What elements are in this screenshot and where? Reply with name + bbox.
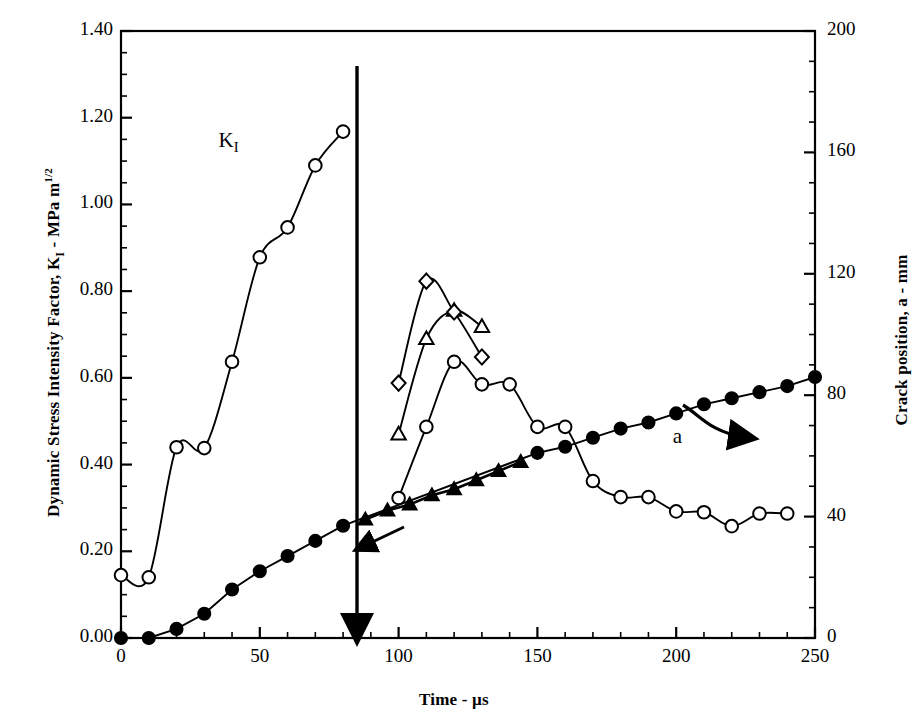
crack-segment-arrow — [364, 527, 404, 546]
data-series-layer — [115, 125, 822, 644]
y-left-tick-1.20: 1.20 — [43, 105, 113, 127]
a-pointer-arrow — [683, 405, 744, 437]
y-left-tick-0.00: 0.00 — [43, 625, 113, 647]
y-right-tick-120: 120 — [827, 261, 887, 283]
y-left-tick-0.40: 0.40 — [43, 452, 113, 474]
y-right-tick-160: 160 — [827, 139, 887, 161]
y-left-tick-0.80: 0.80 — [43, 278, 113, 300]
x-tick-50: 50 — [230, 645, 290, 667]
series-4 — [115, 371, 822, 645]
y-left-tick-1.40: 1.40 — [43, 18, 113, 40]
y-right-tick-40: 40 — [827, 504, 887, 526]
series-2 — [391, 303, 489, 439]
y-left-tick-0.60: 0.60 — [43, 365, 113, 387]
a-curve-label: a — [673, 424, 682, 449]
y-left-tick-1.00: 1.00 — [43, 191, 113, 213]
x-tick-150: 150 — [507, 645, 567, 667]
y-right-tick-0: 0 — [827, 625, 887, 647]
y-right-tick-200: 200 — [827, 18, 887, 40]
x-tick-100: 100 — [369, 645, 429, 667]
x-tick-0: 0 — [91, 645, 151, 667]
ki-curve-label: KI — [218, 128, 238, 156]
y-right-tick-80: 80 — [827, 382, 887, 404]
x-tick-200: 200 — [646, 645, 706, 667]
x-tick-250: 250 — [785, 645, 845, 667]
y-left-tick-0.20: 0.20 — [43, 538, 113, 560]
series-0 — [115, 125, 350, 586]
